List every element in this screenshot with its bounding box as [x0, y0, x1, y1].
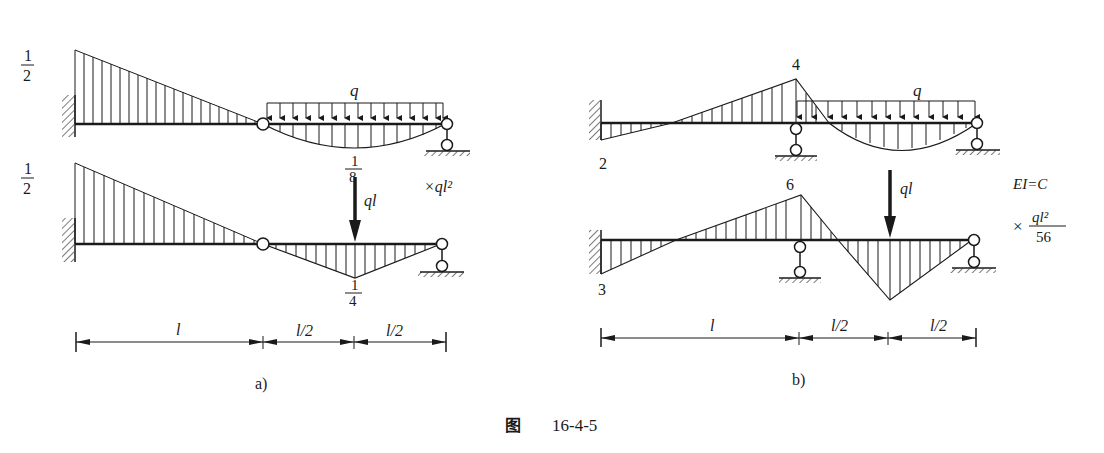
- point-load-arrow-icon: [349, 177, 361, 242]
- hinge-icon: [257, 238, 269, 250]
- b-multiplier-den: 56: [1036, 229, 1052, 245]
- figure-caption-prefix: 图: [505, 416, 521, 435]
- b-bottom-wall-value: 3: [598, 281, 606, 298]
- b-multiplier-num: ql²: [1032, 209, 1049, 225]
- diagram-b-bottom: 3 6 ql EI=C × ql² 56: [589, 170, 1066, 300]
- distributed-load-icon: [267, 103, 443, 118]
- hinge-icon: [257, 118, 269, 130]
- diagram-a-bottom: 1 2 ql 1 4 ×ql²: [21, 160, 464, 309]
- diagram-b-dimensions: [601, 328, 976, 347]
- a-dim-3: l/2: [386, 322, 403, 339]
- b-bottom-load-label: ql: [900, 180, 913, 198]
- a-top-mid-num: 1: [351, 153, 359, 169]
- b-panel-label: b): [792, 371, 805, 389]
- a-multiplier: ×ql²: [424, 178, 453, 196]
- a-dim-2: l/2: [296, 322, 313, 339]
- diagram-a-top: 1 2 q 1 8: [21, 47, 470, 185]
- fixed-support-icon: [62, 95, 74, 137]
- a-bottom-load-label: ql: [364, 192, 377, 210]
- intermediate-support-icon: [775, 124, 817, 162]
- a-top-left-den: 2: [23, 67, 31, 84]
- bending-moment-diagrams: 1 2 q 1 8: [0, 0, 1104, 453]
- b-dim-2: l/2: [831, 317, 848, 334]
- b-top-load-label: q: [913, 81, 922, 100]
- a-top-left-num: 1: [24, 47, 32, 64]
- a-bottom-mid-den: 4: [349, 293, 357, 309]
- b-top-support-value: 4: [792, 56, 800, 73]
- a-dim-1: l: [176, 321, 181, 338]
- point-load-arrow-icon: [884, 170, 896, 238]
- diagram-b-top: 2 4 q: [589, 56, 1000, 172]
- b-dim-3: l/2: [930, 317, 947, 334]
- a-top-load-label: q: [350, 81, 359, 100]
- fixed-support-icon: [589, 100, 600, 140]
- b-bottom-support-value: 6: [786, 176, 794, 193]
- b-multiplier-prefix: ×: [1013, 217, 1023, 236]
- stiffness-label: EI=C: [1012, 176, 1048, 192]
- a-panel-label: a): [255, 375, 267, 393]
- b-top-wall-value: 2: [599, 155, 607, 172]
- a-bottom-left-den: 2: [23, 180, 31, 197]
- fixed-support-icon: [589, 230, 600, 274]
- moment-hatch: [75, 50, 263, 124]
- a-bottom-left-num: 1: [24, 160, 32, 177]
- fixed-support-icon: [62, 218, 74, 262]
- distributed-load-icon: [797, 101, 975, 117]
- figure-caption-number: 16-4-5: [552, 416, 597, 435]
- intermediate-support-icon: [779, 242, 821, 284]
- b-dim-1: l: [710, 317, 715, 334]
- a-bottom-mid-num: 1: [351, 277, 359, 293]
